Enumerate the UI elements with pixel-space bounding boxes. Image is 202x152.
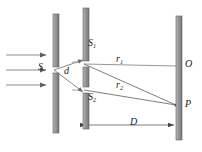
ray-r2 <box>84 90 176 105</box>
viewing-screen <box>176 16 182 140</box>
barrier-double-upper <box>83 8 89 61</box>
barrier-source-upper <box>53 14 59 67</box>
label-slit-2-subscript: 2 <box>93 96 96 103</box>
label-slit-1-subscript: 1 <box>93 42 96 49</box>
label-screen-distance: D <box>130 117 137 127</box>
barrier-double-middle <box>83 67 89 87</box>
double-slit-figure: S S1 S2 d r1 r2 O P D <box>0 0 202 152</box>
diagram-canvas <box>0 0 202 152</box>
label-ray-r1: r1 <box>116 54 123 64</box>
axis-line-to-O <box>84 64 176 66</box>
label-ray-r2: r2 <box>116 80 123 90</box>
barrier-source-lower <box>53 73 59 133</box>
label-ray-r1-subscript: 1 <box>120 58 123 65</box>
label-source-slit: S <box>38 62 43 72</box>
label-slit-2: S2 <box>88 92 96 102</box>
label-screen-center: O <box>185 59 192 69</box>
label-ray-r2-subscript: 2 <box>120 84 123 91</box>
barrier-source-slit <box>53 14 59 133</box>
ray-r1 <box>84 64 176 105</box>
label-slit-1: S1 <box>88 38 96 48</box>
label-screen-point: P <box>185 99 191 109</box>
label-slit-separation: d <box>64 66 69 76</box>
barrier-double-slit <box>83 8 89 129</box>
